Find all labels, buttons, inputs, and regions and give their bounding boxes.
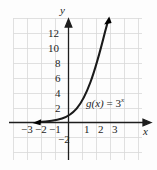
x-tick-label-3: 3	[112, 124, 118, 135]
function-label: g(x) = 3x	[86, 98, 124, 109]
y-tick-label-4: 4	[55, 88, 61, 99]
x-tick-label-minus-3: −3	[21, 124, 33, 135]
y-tick-label-2: 2	[55, 103, 61, 114]
axes	[9, 19, 151, 160]
y-tick-label-10: 10	[48, 43, 59, 54]
function-label-exponent: x	[121, 96, 124, 104]
y-tick-label-12: 12	[48, 28, 59, 39]
y-tick-label-6: 6	[55, 73, 61, 84]
y-tick-label-minus-2: −2	[58, 134, 70, 145]
function-label-name: g(x)	[86, 97, 104, 109]
y-axis-arrowhead	[65, 19, 72, 27]
x-tick-label-minus-1: −1	[49, 124, 61, 135]
exponential-function-graph-figure: 12 10 8 6 4 2 −2 −3 −2 −1 1 2 3 y x g(x)…	[0, 0, 157, 170]
x-tick-label-minus-2: −2	[35, 124, 47, 135]
grid-lines	[14, 18, 143, 160]
plot-canvas	[0, 0, 157, 170]
y-axis-label: y	[60, 5, 65, 16]
x-axis-label: x	[143, 126, 148, 137]
x-tick-label-2: 2	[98, 124, 104, 135]
function-label-equals: =	[106, 97, 112, 109]
x-tick-label-1: 1	[84, 124, 90, 135]
y-tick-label-8: 8	[55, 58, 61, 69]
